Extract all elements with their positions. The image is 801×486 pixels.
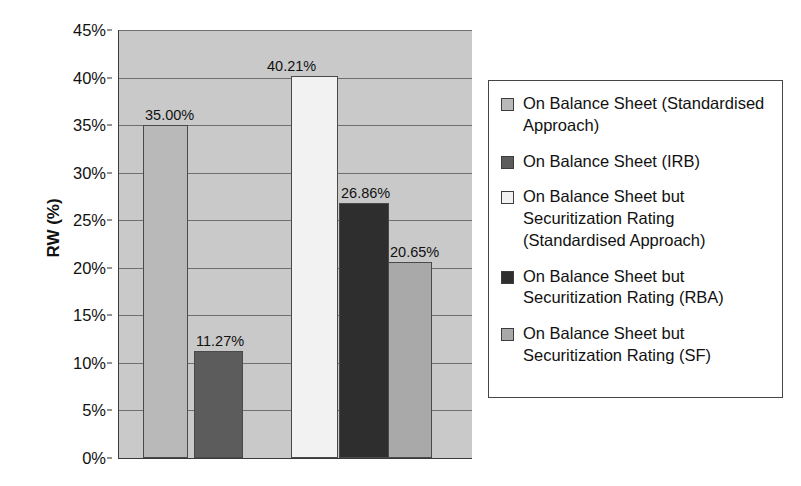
bar-chart: RW (%) 0%5%10%15%20%25%30%35%40%45% 35.0… <box>0 0 801 486</box>
legend: On Balance Sheet (Standardised Approach)… <box>488 80 783 398</box>
y-tick-mark <box>107 362 112 363</box>
bar <box>339 203 389 458</box>
y-tick-mark <box>107 30 112 31</box>
y-tick-label: 30% <box>44 163 106 182</box>
bar-value-label: 35.00% <box>145 108 194 123</box>
y-tick-mark <box>107 267 112 268</box>
legend-item-label: On Balance Sheet but Securitization Rati… <box>523 266 772 310</box>
y-axis-ticks: 0%5%10%15%20%25%30%35%40%45% <box>44 30 112 458</box>
legend-swatch-icon <box>501 328 514 341</box>
legend-swatch-icon <box>501 271 514 284</box>
y-tick-label: 35% <box>44 116 106 135</box>
y-tick-label: 40% <box>44 68 106 87</box>
bar-value-label: 11.27% <box>196 334 244 349</box>
legend-item-label: On Balance Sheet but Securitization Rati… <box>523 323 772 367</box>
legend-item[interactable]: On Balance Sheet but Securitization Rati… <box>501 186 772 251</box>
bar <box>194 351 243 458</box>
legend-item[interactable]: On Balance Sheet (IRB) <box>501 151 772 173</box>
y-tick-label: 45% <box>44 21 106 40</box>
bar-value-label: 40.21% <box>267 59 316 74</box>
legend-swatch-icon <box>501 156 514 169</box>
y-tick-mark <box>107 172 112 173</box>
bar-value-label: 20.65% <box>390 245 439 260</box>
legend-item-label: On Balance Sheet (Standardised Approach) <box>523 93 772 137</box>
bar-value-label: 26.86% <box>341 186 390 201</box>
y-tick-label: 5% <box>44 401 106 420</box>
legend-item[interactable]: On Balance Sheet but Securitization Rati… <box>501 323 772 367</box>
y-tick-mark <box>107 410 112 411</box>
bar <box>291 76 338 458</box>
legend-item-label: On Balance Sheet (IRB) <box>523 151 700 173</box>
y-tick-label: 25% <box>44 211 106 230</box>
y-tick-mark <box>107 77 112 78</box>
legend-item[interactable]: On Balance Sheet (Standardised Approach) <box>501 93 772 137</box>
bars-layer: 35.00%11.27%40.21%26.86%20.65% <box>119 30 472 458</box>
bar <box>388 262 432 458</box>
y-tick-mark <box>107 315 112 316</box>
y-tick-mark <box>107 220 112 221</box>
legend-swatch-icon <box>501 191 514 204</box>
legend-item[interactable]: On Balance Sheet but Securitization Rati… <box>501 266 772 310</box>
y-tick-label: 15% <box>44 306 106 325</box>
y-tick-label: 0% <box>44 449 106 468</box>
legend-item-label: On Balance Sheet but Securitization Rati… <box>523 186 772 251</box>
y-tick-label: 10% <box>44 353 106 372</box>
legend-swatch-icon <box>501 98 514 111</box>
y-tick-label: 20% <box>44 258 106 277</box>
bar <box>143 125 188 458</box>
y-tick-mark <box>107 458 112 459</box>
y-tick-mark <box>107 125 112 126</box>
plot-area: 35.00%11.27%40.21%26.86%20.65% <box>118 30 472 459</box>
